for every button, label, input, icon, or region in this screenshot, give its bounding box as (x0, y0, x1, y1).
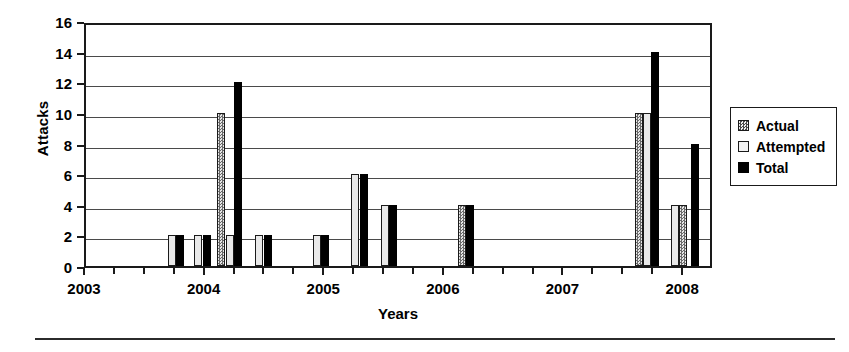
bar-attempted (194, 235, 202, 266)
bar-total (360, 174, 368, 266)
x-tick-mark-minor (472, 268, 474, 274)
x-tick-mark-minor (651, 268, 653, 274)
bar-total (264, 235, 272, 266)
bar-actual (635, 113, 643, 266)
bar-total (691, 144, 699, 267)
x-tick-mark-minor (143, 268, 145, 274)
legend-label-total: Total (756, 161, 788, 175)
bar-attempted (351, 174, 359, 266)
x-tick-mark-minor (352, 268, 354, 274)
x-tick-label: 2005 (288, 280, 358, 297)
y-tick-mark (77, 145, 84, 147)
bar-actual (217, 113, 225, 266)
bar-attempted (226, 235, 234, 266)
bar-total (466, 205, 474, 266)
x-tick-mark-minor (173, 268, 175, 274)
x-tick-mark-minor (233, 268, 235, 274)
y-tick-label: 8 (32, 138, 72, 153)
bar-attempted (168, 235, 176, 266)
legend-item-attempted[interactable]: Attempted (738, 136, 828, 157)
x-tick-mark-major (442, 268, 444, 275)
x-tick-label: 2004 (169, 280, 239, 297)
x-axis-title: Years (84, 305, 712, 322)
y-tick-label: 4 (32, 199, 72, 214)
bar-total (651, 52, 659, 266)
legend-item-total[interactable]: Total (738, 157, 828, 178)
x-tick-mark-minor (591, 268, 593, 274)
y-tick-label: 6 (32, 168, 72, 183)
y-tick-mark (77, 53, 84, 55)
bottom-divider (35, 338, 835, 340)
legend-swatch-total-icon (738, 162, 749, 173)
y-tick-mark (77, 175, 84, 177)
y-tick-mark (77, 206, 84, 208)
x-tick-label: 2007 (527, 280, 597, 297)
x-tick-mark-major (83, 268, 85, 275)
bar-attempted (313, 235, 321, 266)
x-tick-label: 2003 (49, 280, 119, 297)
bar-total (234, 82, 242, 266)
legend-label-attempted: Attempted (756, 140, 825, 154)
plot-area (84, 23, 712, 268)
y-tick-label: 0 (32, 260, 72, 275)
x-tick-label: 2006 (408, 280, 478, 297)
bar-actual (458, 205, 466, 266)
x-tick-mark-major (681, 268, 683, 275)
x-tick-mark-minor (412, 268, 414, 274)
legend-swatch-actual-icon (738, 120, 749, 131)
bar-attempted (643, 113, 651, 266)
bars-layer (86, 25, 710, 266)
x-tick-mark-minor (113, 268, 115, 274)
x-tick-mark-minor (262, 268, 264, 274)
y-tick-label: 10 (32, 107, 72, 122)
legend-item-actual[interactable]: Actual (738, 115, 828, 136)
x-tick-mark-major (203, 268, 205, 275)
x-tick-mark-minor (382, 268, 384, 274)
bar-attempted (671, 205, 679, 266)
x-tick-mark-major (322, 268, 324, 275)
x-tick-mark-major (561, 268, 563, 275)
bar-actual (679, 205, 687, 266)
bar-attempted (255, 235, 263, 266)
bar-total (203, 235, 211, 266)
y-tick-label: 2 (32, 229, 72, 244)
legend-label-actual: Actual (756, 119, 799, 133)
y-tick-label: 12 (32, 76, 72, 91)
bar-total (389, 205, 397, 266)
x-tick-mark-minor (621, 268, 623, 274)
bar-attempted (381, 205, 389, 266)
y-tick-mark (77, 236, 84, 238)
y-tick-label: 16 (32, 15, 72, 30)
x-tick-mark-minor (502, 268, 504, 274)
chart-figure: Attacks 0246810121416 200320042005200620… (0, 0, 849, 352)
y-tick-label: 14 (32, 46, 72, 61)
y-tick-mark (77, 22, 84, 24)
chart-legend: Actual Attempted Total (730, 107, 837, 186)
x-tick-mark-minor (532, 268, 534, 274)
x-tick-label: 2008 (647, 280, 717, 297)
x-tick-mark-minor (292, 268, 294, 274)
bar-total (321, 235, 329, 266)
legend-swatch-attempted-icon (738, 141, 749, 152)
y-tick-mark (77, 83, 84, 85)
bar-total (176, 235, 184, 266)
y-tick-mark (77, 114, 84, 116)
